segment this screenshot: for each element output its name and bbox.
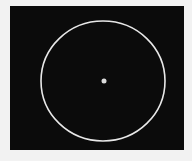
- center-dot: [102, 79, 107, 84]
- ring-figure: [0, 0, 192, 161]
